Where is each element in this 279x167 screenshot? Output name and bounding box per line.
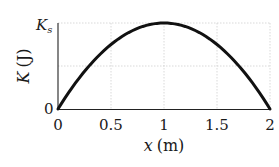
y-tick-0: 0 xyxy=(44,100,54,118)
x-tick-labels: 0 0.5 1 1.5 2 xyxy=(53,116,275,134)
x-tick-0.5: 0.5 xyxy=(99,116,123,134)
x-tick-0: 0 xyxy=(53,116,63,134)
y-axis-label: K(J) xyxy=(14,49,33,85)
x-tick-1.5: 1.5 xyxy=(205,116,229,134)
chart: Ks 0 0 0.5 1 1.5 2 x(m) K(J) xyxy=(0,0,279,167)
y-tick-ks: Ks xyxy=(35,16,52,35)
x-tick-2: 2 xyxy=(265,116,275,134)
x-axis-label: x(m) xyxy=(144,136,185,155)
x-tick-1: 1 xyxy=(159,116,169,134)
